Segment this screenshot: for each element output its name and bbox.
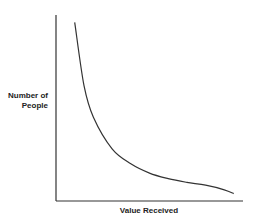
y-axis-label: Number of People (0, 91, 48, 111)
data-curve (75, 22, 234, 193)
x-axis-label: Value Received (0, 206, 254, 215)
chart-canvas (0, 0, 254, 223)
y-axis-label-line2: People (0, 101, 48, 111)
y-axis-label-line1: Number of (0, 91, 48, 101)
